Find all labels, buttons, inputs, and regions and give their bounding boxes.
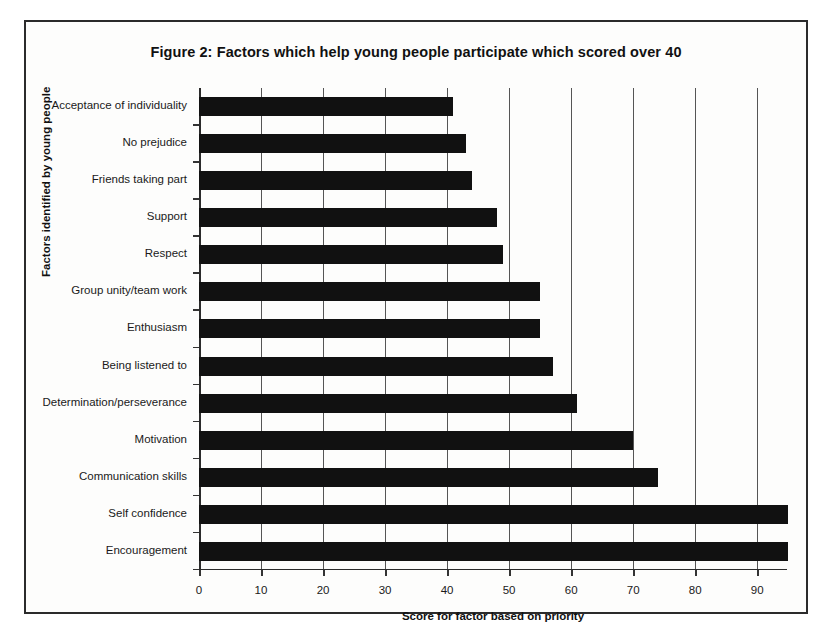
bar (199, 282, 540, 301)
bar-row: Motivation (199, 422, 787, 459)
bar-row: Friends taking part (199, 162, 787, 199)
y-category-label: Enthusiasm (0, 321, 187, 334)
bar (199, 245, 503, 264)
bar-row: Group unity/team work (199, 273, 787, 310)
bar (199, 134, 466, 153)
bar (199, 542, 788, 561)
bar-row: No prejudice (199, 125, 787, 162)
x-tick-label-20: 20 (303, 584, 343, 596)
y-category-label: Friends taking part (0, 173, 187, 186)
x-tick-label-0: 0 (179, 584, 219, 596)
bar (199, 505, 788, 524)
x-tick-label-50: 50 (489, 584, 529, 596)
y-category-label: Support (0, 210, 187, 223)
plot-area: Acceptance of individualityNo prejudiceF… (199, 88, 787, 570)
bar (199, 208, 497, 227)
y-category-label: Respect (0, 247, 187, 260)
y-category-label: Determination/perseverance (0, 396, 187, 409)
bar-row: Self confidence (199, 496, 787, 533)
bar-row: Support (199, 199, 787, 236)
bar (199, 431, 633, 450)
bar-row: Encouragement (199, 533, 787, 570)
bar-row: Respect (199, 236, 787, 273)
x-tick-label-60: 60 (551, 584, 591, 596)
x-tick-60 (571, 570, 573, 576)
x-tick-label-30: 30 (365, 584, 405, 596)
y-category-label: Motivation (0, 433, 187, 446)
bar (199, 171, 472, 190)
bar-row: Enthusiasm (199, 310, 787, 347)
x-tick-40 (447, 570, 449, 576)
y-category-label: Self confidence (0, 507, 187, 520)
x-tick-label-80: 80 (675, 584, 715, 596)
x-tick-label-10: 10 (241, 584, 281, 596)
x-tick-label-70: 70 (613, 584, 653, 596)
x-tick-90 (757, 570, 759, 576)
x-tick-70 (633, 570, 635, 576)
bar (199, 394, 577, 413)
bar (199, 357, 553, 376)
bar-row: Determination/perseverance (199, 385, 787, 422)
y-category-label: Group unity/team work (0, 284, 187, 297)
bar (199, 97, 453, 116)
x-tick-10 (261, 570, 263, 576)
x-tick-label-90: 90 (737, 584, 777, 596)
figure-frame: Figure 2: Factors which help young peopl… (24, 20, 808, 614)
y-category-label: Communication skills (0, 470, 187, 483)
x-tick-0 (199, 570, 201, 576)
y-category-label: Being listened to (0, 359, 187, 372)
y-category-label: Encouragement (0, 544, 187, 557)
bar (199, 319, 540, 338)
x-axis-line (199, 569, 787, 571)
x-tick-30 (385, 570, 387, 576)
x-tick-80 (695, 570, 697, 576)
x-tick-label-40: 40 (427, 584, 467, 596)
bar (199, 468, 658, 487)
y-category-label: No prejudice (0, 136, 187, 149)
x-tick-20 (323, 570, 325, 576)
chart-title: Figure 2: Factors which help young peopl… (26, 44, 806, 60)
bar-row: Being listened to (199, 348, 787, 385)
x-axis-title: Score for factor based on priority (199, 610, 787, 622)
y-category-label: Acceptance of individuality (0, 99, 187, 112)
x-tick-50 (509, 570, 511, 576)
bar-row: Communication skills (199, 459, 787, 496)
bar-row: Acceptance of individuality (199, 88, 787, 125)
